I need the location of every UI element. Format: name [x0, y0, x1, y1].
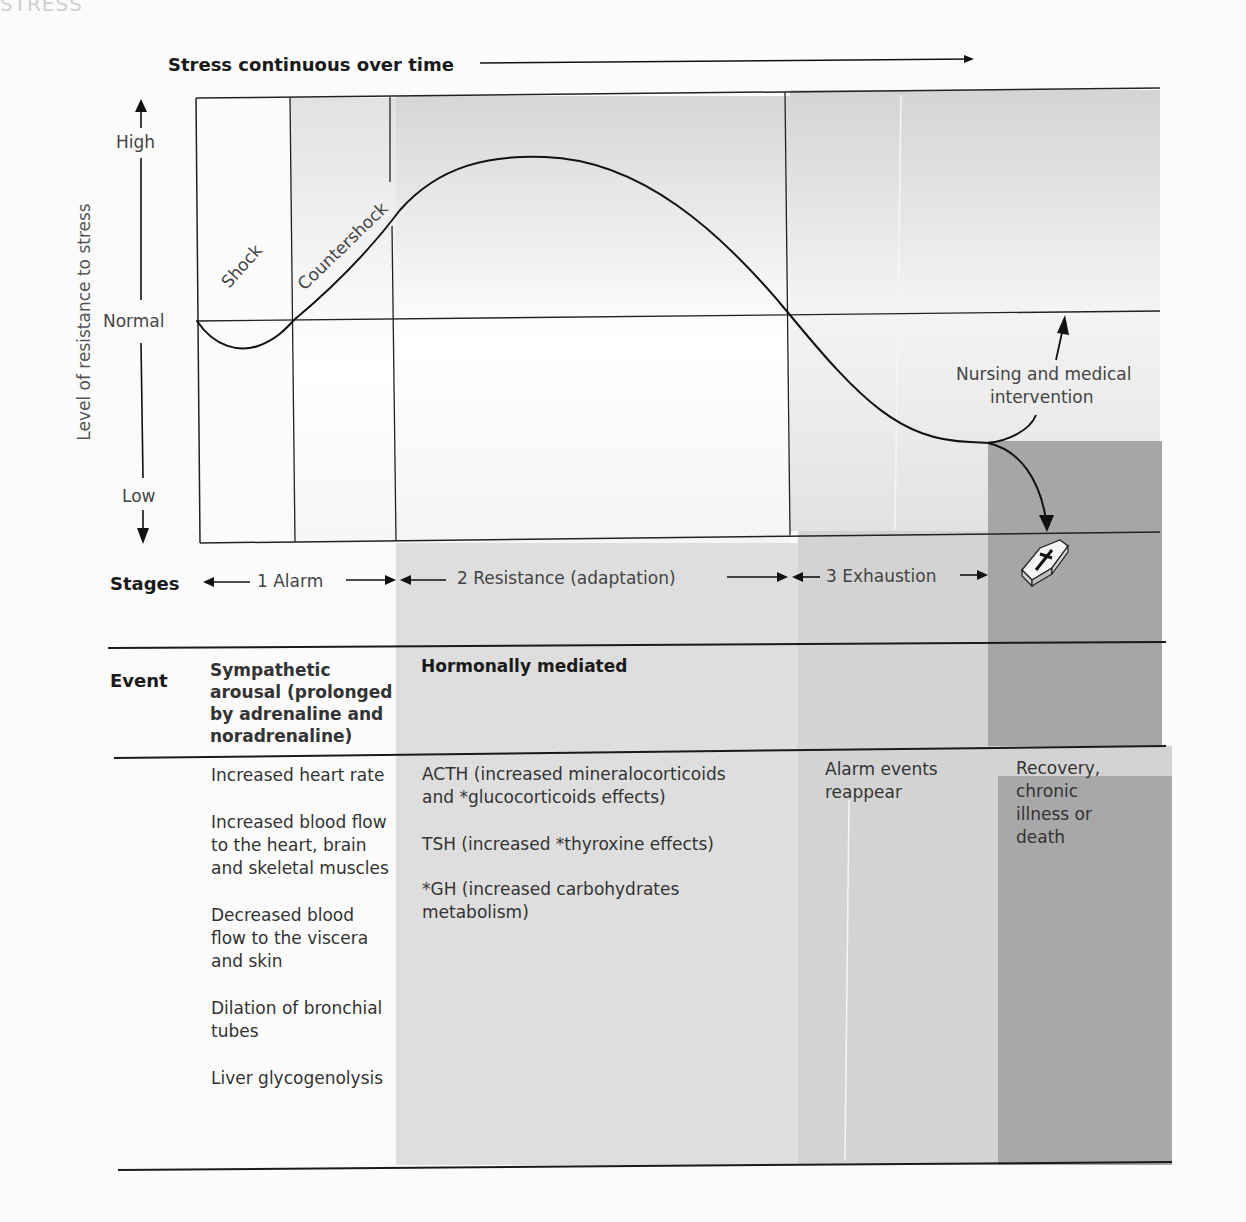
- alarm-effect: Increased heart rate: [211, 764, 391, 787]
- stages-label: Stages: [110, 573, 180, 594]
- time-arrow: [480, 59, 972, 63]
- alarm-effects-list: Increased heart rate Increased blood flo…: [211, 764, 391, 1114]
- alarm-effect: Dilation of bronchial tubes: [211, 997, 391, 1043]
- exhaustion-column-bg: [798, 531, 998, 1165]
- event-label: Event: [110, 670, 168, 691]
- resistance-chart-bg: [396, 96, 790, 543]
- y-tick-high: High: [116, 132, 155, 152]
- alarm-effect: Increased blood flow to the heart, brain…: [211, 811, 391, 880]
- intervention-label-line1: Nursing and medical: [956, 364, 1131, 384]
- y-tick-low: Low: [122, 486, 155, 506]
- outcome-effect: Recovery, chronic illness or death: [1016, 757, 1116, 849]
- intervention-label-line2: intervention: [990, 387, 1093, 407]
- resistance-effect: TSH (increased *thyroxine effects): [422, 833, 762, 856]
- y-axis-label: Level of resistance to stress: [74, 203, 94, 440]
- stage-resistance: 2 Resistance (adaptation): [457, 568, 676, 588]
- diagram-title: Stress continuous over time: [168, 54, 454, 75]
- resistance-event-heading: Hormonally mediated: [421, 656, 627, 676]
- resistance-effect: *GH (increased carbohydrates metabolism): [422, 878, 762, 924]
- stage-exhaustion: 3 Exhaustion: [826, 566, 936, 586]
- resistance-effects-list: ACTH (increased mineralocorticoids and *…: [422, 763, 762, 948]
- resistance-effect: ACTH (increased mineralocorticoids and *…: [422, 763, 762, 809]
- outcome-list: Recovery, chronic illness or death: [1016, 757, 1116, 873]
- diagram-graphics: [0, 0, 1246, 1222]
- exhaustion-effect: Alarm events reappear: [825, 758, 950, 804]
- outcome-chart-bg: [988, 441, 1162, 746]
- alarm-event-heading: Sympathetic arousal (prolonged by adrena…: [210, 659, 400, 747]
- alarm-effect: Liver glycogenolysis: [211, 1067, 391, 1090]
- exhaustion-effects-list: Alarm events reappear: [825, 758, 950, 828]
- stage-alarm: 1 Alarm: [257, 571, 323, 591]
- alarm-effect: Decreased blood flow to the viscera and …: [211, 904, 391, 973]
- y-tick-normal: Normal: [103, 311, 165, 331]
